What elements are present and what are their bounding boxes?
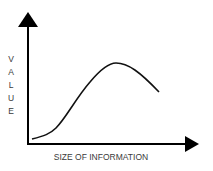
y-axis-arrow-icon (18, 12, 38, 27)
y-label-letter: U (8, 93, 14, 103)
value-curve (32, 63, 159, 139)
x-axis-label: SIZE OF INFORMATION (54, 152, 148, 162)
y-label-letter: L (9, 80, 14, 90)
y-label-letter: E (8, 106, 14, 116)
value-vs-information-diagram: V A L U E SIZE OF INFORMATION (0, 0, 213, 171)
y-axis-label: V A L U E (8, 54, 14, 116)
x-axis-arrow-icon (185, 136, 199, 152)
y-label-letter: V (8, 54, 14, 64)
y-label-letter: A (8, 67, 14, 77)
